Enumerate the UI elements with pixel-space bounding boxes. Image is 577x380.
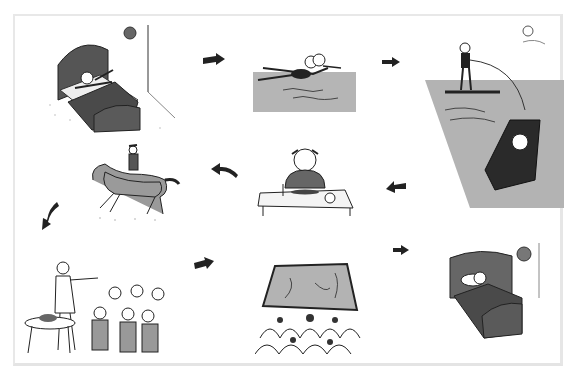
wall-clock-icon	[124, 27, 136, 39]
panel-restaurant-dinner	[20, 258, 175, 358]
arrow-right-icon	[193, 257, 215, 271]
arrow-curved-left-icon	[210, 161, 240, 179]
arrow-left-icon	[385, 180, 407, 194]
sun-icon	[523, 26, 533, 36]
arrow-right-icon	[392, 244, 410, 256]
wall-clock-icon	[517, 247, 531, 261]
panel-wake-up-in-bed	[40, 20, 180, 135]
panel-sleeping-in-bed	[440, 238, 550, 343]
panel-swimming	[253, 50, 367, 115]
panel-eating-meal	[255, 148, 355, 218]
arrow-right-icon	[381, 56, 401, 68]
panel-cinema	[255, 258, 370, 358]
arrow-right-icon	[202, 53, 226, 67]
panel-water-skiing	[425, 20, 565, 210]
panel-horse-riding	[85, 142, 185, 222]
arrow-curved-down-left-icon	[37, 200, 61, 232]
